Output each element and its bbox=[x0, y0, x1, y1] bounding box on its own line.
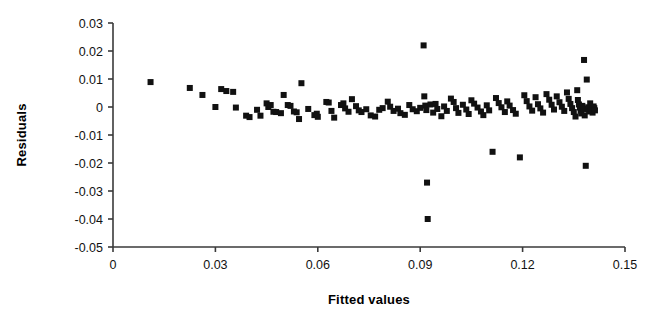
data-point bbox=[223, 88, 229, 94]
y-axis-tick-label: 0.03 bbox=[79, 17, 103, 31]
data-point bbox=[438, 113, 444, 119]
y-axis-group: 0.030.020.010-0.01-0.02-0.03-0.04-0.05 bbox=[75, 17, 114, 255]
data-point bbox=[230, 89, 236, 95]
data-point bbox=[257, 113, 263, 119]
data-point bbox=[427, 101, 433, 107]
data-point bbox=[349, 96, 355, 102]
y-axis-tick-label: -0.05 bbox=[75, 241, 104, 255]
data-point bbox=[513, 111, 519, 117]
data-point bbox=[287, 103, 293, 109]
x-axis-group: 00.030.060.090.120.15 bbox=[110, 247, 638, 272]
data-point bbox=[305, 106, 311, 112]
data-point bbox=[502, 109, 508, 115]
data-point bbox=[212, 104, 218, 110]
data-point bbox=[326, 100, 332, 106]
y-axis-tick-label: -0.04 bbox=[75, 213, 104, 227]
x-axis-tick-label: 0.06 bbox=[306, 258, 330, 272]
data-point bbox=[425, 216, 431, 222]
data-point bbox=[533, 94, 539, 100]
data-point bbox=[584, 77, 590, 83]
data-point bbox=[218, 86, 224, 92]
y-axis-tick-label: 0 bbox=[96, 101, 103, 115]
data-point bbox=[455, 110, 461, 116]
data-point bbox=[564, 89, 570, 95]
data-point bbox=[434, 106, 440, 112]
data-points-group bbox=[148, 42, 598, 222]
data-point bbox=[424, 180, 430, 186]
data-point bbox=[573, 114, 579, 120]
data-point bbox=[417, 105, 423, 111]
data-point bbox=[517, 154, 523, 160]
y-axis-tick-label: -0.02 bbox=[75, 157, 104, 171]
y-axis-tick-label: -0.03 bbox=[75, 185, 104, 199]
data-point bbox=[421, 93, 427, 99]
axis-titles-group: ResidualsFitted values bbox=[14, 103, 410, 307]
residuals-scatter-chart: 0.030.020.010-0.01-0.02-0.03-0.04-0.05 0… bbox=[0, 0, 670, 325]
y-axis-tick-label: -0.01 bbox=[75, 129, 104, 143]
data-point bbox=[331, 115, 337, 121]
x-axis-tick-label: 0.12 bbox=[510, 258, 534, 272]
data-point bbox=[540, 110, 546, 116]
data-point bbox=[278, 110, 284, 116]
data-point bbox=[583, 163, 589, 169]
x-axis-tick-label: 0.09 bbox=[408, 258, 432, 272]
data-point bbox=[268, 102, 274, 108]
data-point bbox=[187, 85, 193, 91]
y-axis-tick-label: 0.02 bbox=[79, 45, 103, 59]
data-point bbox=[372, 114, 378, 120]
data-point bbox=[402, 112, 408, 118]
data-point bbox=[328, 108, 334, 114]
data-point bbox=[444, 108, 450, 114]
data-point bbox=[281, 92, 287, 98]
data-point bbox=[247, 114, 253, 120]
data-point bbox=[490, 149, 496, 155]
data-point bbox=[551, 107, 557, 113]
data-point bbox=[148, 79, 154, 85]
data-point bbox=[574, 87, 580, 93]
data-point bbox=[199, 92, 205, 98]
data-point bbox=[423, 107, 429, 113]
plot-canvas: 0.030.020.010-0.01-0.02-0.03-0.04-0.05 0… bbox=[0, 0, 670, 325]
data-point bbox=[346, 109, 352, 115]
data-point bbox=[529, 108, 535, 114]
data-point bbox=[524, 98, 530, 104]
data-point bbox=[380, 105, 386, 111]
data-point bbox=[294, 109, 300, 115]
data-point bbox=[363, 106, 369, 112]
data-point bbox=[486, 107, 492, 113]
y-axis-tick-label: 0.01 bbox=[79, 73, 103, 87]
data-point bbox=[543, 91, 549, 97]
data-point bbox=[554, 93, 560, 99]
data-point bbox=[315, 114, 321, 120]
data-point bbox=[521, 92, 527, 98]
data-point bbox=[466, 111, 472, 117]
y-axis-title: Residuals bbox=[14, 103, 29, 166]
x-axis-title: Fitted values bbox=[328, 292, 410, 307]
data-point bbox=[421, 42, 427, 48]
data-point bbox=[233, 105, 239, 111]
data-point bbox=[561, 108, 567, 114]
data-point bbox=[581, 57, 587, 63]
data-point bbox=[254, 107, 260, 113]
x-axis-tick-label: 0.03 bbox=[203, 258, 227, 272]
data-point bbox=[592, 107, 598, 113]
data-point bbox=[451, 99, 457, 105]
data-point bbox=[298, 80, 304, 86]
x-axis-tick-label: 0.15 bbox=[613, 258, 637, 272]
x-axis-tick-label: 0 bbox=[110, 258, 117, 272]
data-point bbox=[480, 112, 486, 118]
data-point bbox=[296, 116, 302, 122]
